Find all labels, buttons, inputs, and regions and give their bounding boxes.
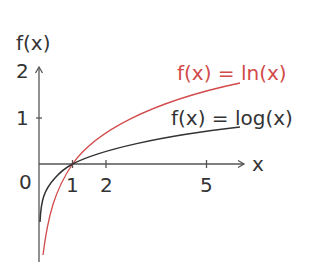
x-tick-label-1: 1 xyxy=(66,173,79,197)
x-tick-label-5: 5 xyxy=(200,173,213,197)
ln-curve-label: f(x) = ln(x) xyxy=(177,61,287,85)
chart: f(x) 2 1 0 1 2 5 x f(x) = ln(x) f(x) = l… xyxy=(0,0,314,268)
x-axis-label: x xyxy=(252,152,264,176)
axes xyxy=(36,67,245,262)
x-tick-label-2: 2 xyxy=(100,173,113,197)
y-tick-label-1: 1 xyxy=(16,106,29,130)
log-curve-label: f(x) = log(x) xyxy=(171,106,293,130)
y-axis-label: f(x) xyxy=(16,31,50,55)
y-tick-label-2: 2 xyxy=(16,59,29,83)
origin-label: 0 xyxy=(19,170,32,194)
